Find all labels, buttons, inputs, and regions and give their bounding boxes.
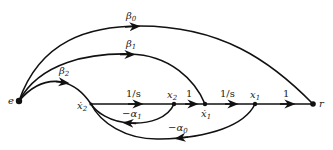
- edge-alpha0-arrow: [180, 137, 188, 138]
- signal-flow-graph: e ẋ2 x2 ẋ1 x1 r β0 β1 β2 1/s 1 1/s 1 −α1…: [0, 0, 333, 150]
- gain-beta0: β0: [125, 10, 137, 23]
- node-x2dot: [89, 102, 92, 105]
- gain-alpha0: −α0: [168, 122, 188, 135]
- node-x2: [172, 102, 176, 106]
- edge-beta0-arrow: [125, 27, 135, 28]
- label-r: r: [319, 98, 325, 109]
- gain-1-r: 1: [283, 88, 289, 99]
- node-e: [16, 98, 22, 104]
- edge-alpha1-arrow: [128, 123, 136, 124]
- gain-beta1: β1: [125, 38, 136, 51]
- label-x1dot: ẋ1: [201, 108, 211, 121]
- gain-beta2: β2: [58, 65, 70, 78]
- label-x1: x1: [250, 89, 260, 102]
- node-x1dot: [203, 102, 207, 106]
- label-x2dot: ẋ2: [77, 100, 88, 113]
- gain-1-x1dot: 1: [186, 88, 192, 99]
- gain-alpha1: −α1: [122, 108, 142, 121]
- node-r: [310, 101, 316, 107]
- gain-1s-x2: 1/s: [126, 88, 141, 99]
- edge-beta2-arrow: [56, 82, 64, 83]
- node-x1: [253, 102, 257, 106]
- label-e: e: [8, 95, 14, 106]
- label-x2: x2: [167, 89, 178, 102]
- gain-1s-x1: 1/s: [220, 88, 235, 99]
